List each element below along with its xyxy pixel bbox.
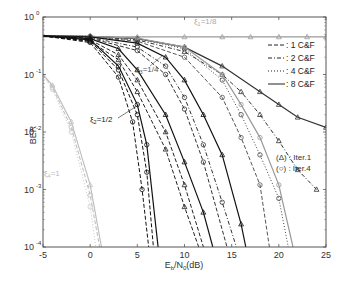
series-line xyxy=(43,75,102,248)
xi-annotation: ξ2=1/2 xyxy=(90,115,113,125)
legend-label: : 4 C&F xyxy=(286,66,315,76)
ber-chart: -5051015202510010-110-210-310-4 BER Eb/N… xyxy=(0,0,341,282)
circle-marker xyxy=(220,200,224,204)
marker-legend-label: (○) : Iter.4 xyxy=(276,164,311,173)
plot-frame xyxy=(43,17,326,247)
x-tick-label: 15 xyxy=(227,250,237,260)
xi-annotation: ξ1=1/8 xyxy=(194,17,217,27)
series-line xyxy=(43,36,199,247)
x-tick-label: 10 xyxy=(179,250,189,260)
series-line xyxy=(43,75,96,248)
circle-marker xyxy=(220,78,224,82)
y-tick-label: 10 xyxy=(24,185,34,195)
y-tick-exponent: -4 xyxy=(36,240,42,246)
y-tick-label: 10 xyxy=(24,70,34,80)
xi-annotation: ξ4=1 xyxy=(44,169,60,179)
circle-marker xyxy=(69,130,73,134)
series-line xyxy=(43,36,236,247)
xi-annotation: ξ3=1/4 xyxy=(136,65,159,75)
y-tick-label: 10 xyxy=(24,242,34,252)
x-tick-label: 0 xyxy=(88,250,93,260)
y-tick-label: 10 xyxy=(24,12,34,22)
x-tick-label: 5 xyxy=(135,250,140,260)
series-line xyxy=(43,36,288,247)
legend-label: : 8 C&F xyxy=(286,79,315,89)
series-line xyxy=(43,36,158,247)
y-tick-exponent: -3 xyxy=(36,183,42,189)
legend-label: : 2 C&F xyxy=(286,53,315,63)
y-tick-exponent: 0 xyxy=(36,10,40,16)
y-axis-label: BER xyxy=(28,125,38,144)
series-line xyxy=(43,36,293,247)
marker-legend-label: (Δ) : Iter.1 xyxy=(276,153,312,162)
y-tick-exponent: -1 xyxy=(36,68,42,74)
annotations: ξ1=1/8ξ3=1/4ξ2=1/2ξ4=1 xyxy=(44,17,217,179)
circle-marker xyxy=(135,112,139,116)
x-tick-label: 20 xyxy=(274,250,284,260)
circle-marker xyxy=(258,153,262,157)
circle-marker xyxy=(182,107,186,111)
legend-label: : 1 C&F xyxy=(286,40,315,50)
series-line xyxy=(43,75,100,248)
x-tick-label: -5 xyxy=(39,250,47,260)
x-axis-label: Eb/N0(dB) xyxy=(165,260,204,271)
legend: : 1 C&F: 2 C&F: 4 C&F: 8 C&F(Δ) : Iter.1… xyxy=(268,40,315,173)
triangle-marker xyxy=(258,112,263,116)
x-tick-label: 25 xyxy=(321,250,331,260)
